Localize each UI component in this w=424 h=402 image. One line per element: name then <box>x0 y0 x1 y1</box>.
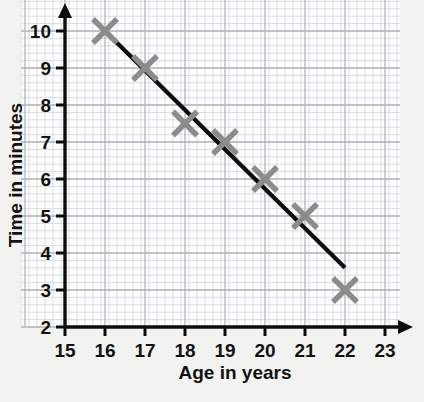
y-tick-label: 8 <box>40 95 51 116</box>
y-tick-label: 9 <box>40 58 51 79</box>
x-tick-label: 17 <box>134 340 155 361</box>
x-axis-title: Age in years <box>179 362 292 383</box>
x-tick-label: 22 <box>334 340 355 361</box>
x-tick-label: 15 <box>54 340 76 361</box>
x-tick-label: 16 <box>94 340 115 361</box>
x-axis-arrowhead <box>398 320 413 334</box>
chart-container: 2345678910151617181920212223Age in years… <box>0 0 424 402</box>
y-tick-label: 3 <box>40 280 51 301</box>
y-axis-title: Time in minutes <box>5 103 26 247</box>
y-tick-label: 5 <box>40 206 51 227</box>
y-tick-label: 10 <box>30 21 51 42</box>
x-tick-label: 20 <box>254 340 275 361</box>
x-tick-label: 23 <box>374 340 395 361</box>
y-tick-label: 7 <box>40 132 51 153</box>
x-tick-label: 19 <box>214 340 235 361</box>
x-tick-label: 18 <box>174 340 195 361</box>
scatter-plot: 2345678910151617181920212223Age in years… <box>0 0 424 402</box>
y-tick-label: 2 <box>40 317 51 338</box>
y-tick-label: 6 <box>40 169 51 190</box>
x-tick-label: 21 <box>294 340 316 361</box>
y-tick-label: 4 <box>40 243 51 264</box>
